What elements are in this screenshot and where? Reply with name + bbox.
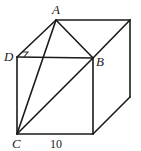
edge-d-b [17,57,93,58]
label-c: C [12,136,21,151]
edge-a-b [56,20,93,58]
label-d: D [3,49,14,64]
diagonal-c-b [17,58,93,134]
label-a: A [51,2,60,17]
right-angle-marker [22,52,28,57]
edge-frontbottomright-backbottomright [93,97,130,134]
cube-diagram: A D B C 10 [0,0,141,151]
edge-length-label: 10 [50,137,62,151]
diagonal-a-c [17,20,56,134]
diagonal-b-topbackright [93,20,130,58]
label-b: B [96,54,104,69]
